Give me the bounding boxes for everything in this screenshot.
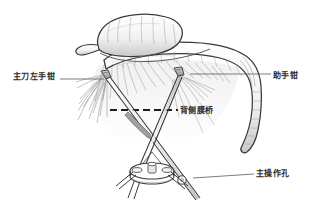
label-dorsal-membrane-bridge: 背侧膜桥 — [180, 107, 214, 115]
label-main-operating-port: 主操作孔 — [256, 170, 290, 178]
surgical-illustration — [0, 0, 318, 214]
label-surgeon-left-forceps: 主刀左手钳 — [13, 73, 55, 81]
figure-canvas: 主刀左手钳 助手钳 背侧膜桥 主操作孔 — [0, 0, 318, 214]
label-assistant-forceps: 助手钳 — [273, 72, 298, 80]
